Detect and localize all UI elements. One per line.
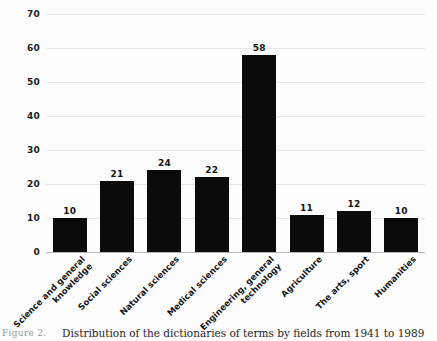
bars-layer: 1021242258111210 (46, 14, 425, 252)
gridline-0 (46, 252, 425, 253)
y-tick-label: 20 (27, 179, 40, 189)
x-axis-labels: Science and generalknowledgeSocial scien… (46, 254, 425, 326)
y-tick-label: 40 (27, 111, 40, 121)
bar[interactable] (53, 218, 87, 252)
x-tick-label: Humanities (373, 254, 419, 300)
y-tick-label: 70 (27, 9, 40, 19)
bar[interactable] (147, 170, 181, 252)
x-tick-label-line: Humanities (373, 254, 419, 300)
figure-caption: Figure 2. Distribution of the dictionari… (0, 326, 437, 341)
bar-group[interactable]: 22 (195, 14, 229, 252)
bar-group[interactable]: 58 (242, 14, 276, 252)
x-tick-label-line: Agriculture (278, 254, 323, 299)
bar-value-label: 58 (242, 43, 276, 53)
bar-group[interactable]: 10 (53, 14, 87, 252)
bar[interactable] (195, 177, 229, 252)
bar-group[interactable]: 11 (290, 14, 324, 252)
bar-value-label: 10 (384, 206, 418, 216)
bar[interactable] (384, 218, 418, 252)
plot-area: 010203040506070 1021242258111210 (46, 14, 425, 252)
bar[interactable] (242, 55, 276, 252)
bar-value-label: 21 (100, 169, 134, 179)
y-tick-label: 10 (27, 213, 40, 223)
y-tick-label: 30 (27, 145, 40, 155)
caption-number: Figure 2. (2, 328, 46, 338)
bar[interactable] (290, 215, 324, 252)
caption-body: Distribution of the dictionaries of term… (62, 327, 424, 339)
bar-value-label: 12 (337, 199, 371, 209)
x-tick-label: Agriculture (278, 254, 323, 299)
bar-value-label: 10 (53, 206, 87, 216)
x-tick-label: Science and generalknowledge (11, 254, 94, 337)
y-tick-label: 60 (27, 43, 40, 53)
bar-value-label: 22 (195, 165, 229, 175)
bar-value-label: 11 (290, 203, 324, 213)
bar-value-label: 24 (147, 158, 181, 168)
bar-group[interactable]: 10 (384, 14, 418, 252)
bar[interactable] (337, 211, 371, 252)
bar-group[interactable]: 24 (147, 14, 181, 252)
y-tick-label: 50 (27, 77, 40, 87)
y-tick-label: 0 (34, 247, 40, 257)
bar[interactable] (100, 181, 134, 252)
x-tick-label-line: Science and general (11, 254, 87, 330)
bar-chart-figure: 010203040506070 1021242258111210 Science… (0, 0, 437, 341)
bar-group[interactable]: 21 (100, 14, 134, 252)
bar-group[interactable]: 12 (337, 14, 371, 252)
